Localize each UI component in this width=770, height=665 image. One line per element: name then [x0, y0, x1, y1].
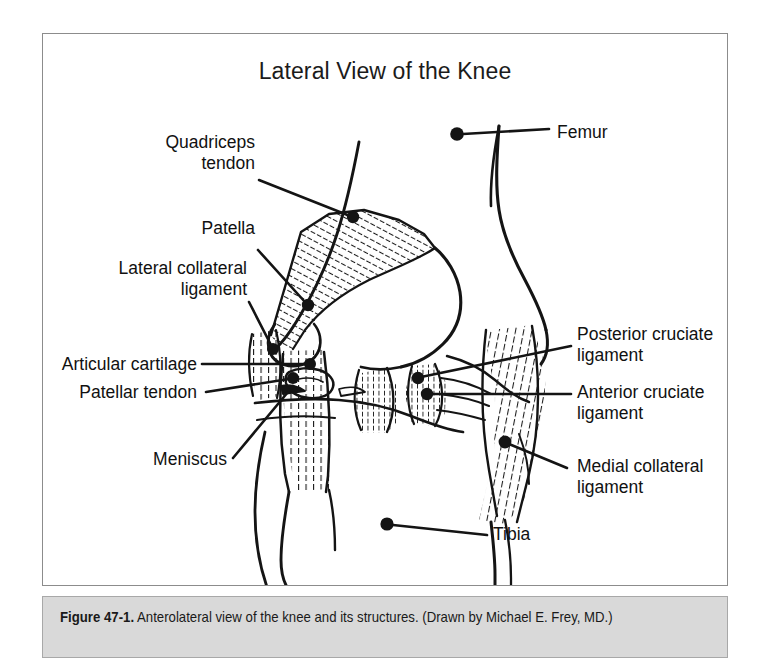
figure-caption-number: Figure 47-1. [60, 609, 134, 625]
label-tibia: Tibia [493, 524, 613, 545]
figure-caption-bar: Figure 47-1. Anterolateral view of the k… [42, 596, 728, 658]
figure-caption-body: Anterolateral view of the knee and its s… [134, 609, 613, 625]
illustration-frame: Lateral View of the Knee [42, 33, 728, 586]
label-medial-collateral-ligament: Medial collateral ligament [577, 456, 728, 498]
figure-container: Lateral View of the Knee [0, 0, 770, 665]
label-quadriceps-tendon: Quadriceps tendon [83, 132, 255, 174]
label-posterior-cruciate-ligament: Posterior cruciate ligament [577, 324, 728, 366]
label-lateral-collateral-ligament: Lateral collateral ligament [63, 258, 247, 300]
label-patellar-tendon: Patellar tendon [53, 382, 197, 403]
label-femur: Femur [557, 122, 707, 143]
label-patella: Patella [83, 218, 255, 239]
figure-caption-text: Figure 47-1. Anterolateral view of the k… [60, 608, 667, 627]
label-anterior-cruciate-ligament: Anterior cruciate ligament [577, 382, 728, 424]
knee-anatomy-drawing [43, 34, 728, 586]
label-articular-cartilage: Articular cartilage [43, 354, 197, 375]
label-meniscus: Meniscus [103, 449, 227, 470]
